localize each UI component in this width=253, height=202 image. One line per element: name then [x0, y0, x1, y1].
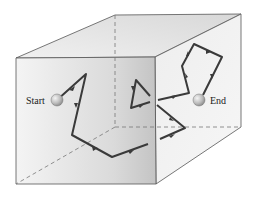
- start-ball: [51, 94, 63, 106]
- end-label: End: [210, 95, 226, 106]
- end-ball: [193, 94, 205, 106]
- start-label: Start: [26, 95, 45, 106]
- random-walk-box-diagram: Start End: [0, 0, 253, 202]
